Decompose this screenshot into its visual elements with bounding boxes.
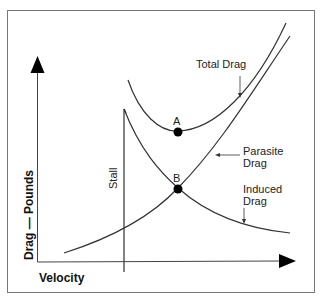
y-axis-label: Drag — Pounds xyxy=(22,170,36,260)
y-axis-arrow-icon xyxy=(31,56,45,73)
x-axis xyxy=(38,261,281,262)
parasite-drag-pointer-arrow-icon xyxy=(215,153,220,157)
point-b-label: B xyxy=(173,172,180,184)
x-axis-arrow-icon xyxy=(279,254,296,268)
point-b xyxy=(174,185,183,194)
parasite-drag-label-line2: Drag xyxy=(243,157,267,169)
x-axis-label: Velocity xyxy=(39,271,85,285)
stall-label: Stall xyxy=(107,168,119,189)
point-a-label: A xyxy=(173,115,181,127)
point-a xyxy=(174,128,183,137)
drag-diagram: Total Drag Parasite Drag Induced Drag A … xyxy=(0,0,321,300)
stall-line xyxy=(124,109,126,272)
induced-drag-label-line2: Drag xyxy=(243,195,267,207)
induced-drag-label-line1: Induced xyxy=(243,183,282,195)
total-drag-label: Total Drag xyxy=(196,58,246,70)
induced-drag-curve xyxy=(124,109,290,233)
parasite-drag-label-line1: Parasite xyxy=(243,145,283,157)
